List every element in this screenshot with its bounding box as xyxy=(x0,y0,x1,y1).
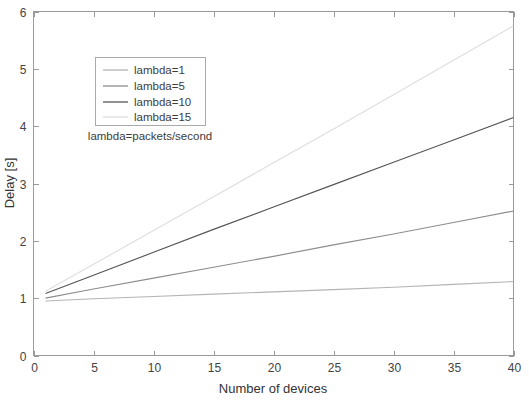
x-tick-label-40: 40 xyxy=(508,361,522,375)
legend-label-3: lambda=15 xyxy=(134,111,191,123)
y-tick-label-6: 6 xyxy=(20,6,27,20)
y-tick-label-0: 0 xyxy=(20,350,27,364)
x-tick-label-10: 10 xyxy=(148,361,162,375)
legend-label-2: lambda=10 xyxy=(134,96,191,108)
y-tick-label-4: 4 xyxy=(20,120,27,134)
legend-note: lambda=packets/second xyxy=(88,130,212,142)
y-tick-label-2: 2 xyxy=(20,235,27,249)
x-tick-label-30: 30 xyxy=(388,361,402,375)
legend-label-0: lambda=1 xyxy=(134,64,185,76)
line-chart: 0510152025303540 0123456 Number of devic… xyxy=(0,0,529,400)
figure-background xyxy=(0,0,529,400)
y-axis-title: Delay [s] xyxy=(2,158,17,209)
y-tick-label-3: 3 xyxy=(20,178,27,192)
chart-legend: lambda=1lambda=5lambda=10lambda=15 xyxy=(96,58,206,126)
legend-label-1: lambda=5 xyxy=(134,80,185,92)
x-tick-label-25: 25 xyxy=(328,361,342,375)
x-tick-label-15: 15 xyxy=(208,361,222,375)
x-tick-label-5: 5 xyxy=(91,361,98,375)
x-axis-title: Number of devices xyxy=(219,381,328,396)
chart-figure: 0510152025303540 0123456 Number of devic… xyxy=(0,0,529,400)
y-tick-label-5: 5 xyxy=(20,63,27,77)
x-tick-label-0: 0 xyxy=(31,361,38,375)
y-tick-label-1: 1 xyxy=(20,292,27,306)
x-tick-label-20: 20 xyxy=(268,361,282,375)
x-tick-label-35: 35 xyxy=(448,361,462,375)
